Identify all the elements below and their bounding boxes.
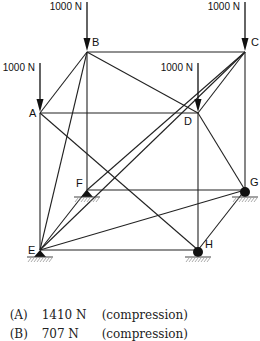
ground-hatch (195, 258, 198, 262)
ground-hatch (245, 198, 248, 202)
load-label: 1000 N (50, 1, 82, 12)
ground-hatch (81, 198, 84, 202)
node-label-h: H (205, 238, 213, 250)
pin-icon (34, 250, 46, 257)
load-arrowhead-icon (242, 38, 249, 51)
member-DC (198, 52, 245, 113)
ground-hatch (207, 258, 210, 262)
pin-icon (81, 190, 93, 197)
node-label-b: B (92, 36, 99, 48)
ground-hatch (43, 258, 46, 262)
ground-hatch (248, 198, 251, 202)
node-label-e: E (28, 244, 35, 256)
member-AH (40, 113, 198, 250)
answer-option-b[interactable]: (B)707 N(compression) (2, 313, 188, 341)
roller-icon (193, 247, 203, 257)
ground-hatch (198, 258, 201, 262)
load-label: 1000 N (3, 62, 35, 73)
support-g-roller (232, 187, 258, 202)
member-DG (198, 113, 245, 190)
ground-hatch (251, 198, 254, 202)
ground-hatch (201, 258, 204, 262)
truss-diagram: 1000 N1000 N1000 N1000 NABCDEFGH (0, 0, 260, 290)
ground-hatch (37, 258, 40, 262)
option-key: (B) (10, 327, 42, 341)
node-label-a: A (29, 107, 37, 119)
node-label-c: C (251, 36, 259, 48)
ground-hatch (40, 258, 43, 262)
ground-hatch (78, 198, 81, 202)
roller-icon (240, 187, 250, 197)
ground-hatch (28, 258, 31, 262)
load-arrowhead-icon (84, 38, 91, 51)
ground-hatch (84, 198, 87, 202)
ground-hatch (49, 258, 52, 262)
load-label: 1000 N (208, 1, 240, 12)
ground-hatch (46, 258, 49, 262)
ground-hatch (189, 258, 192, 262)
ground-hatch (239, 198, 242, 202)
ground-hatch (254, 198, 257, 202)
option-value: 707 N (42, 327, 102, 341)
ground-hatch (204, 258, 207, 262)
node-label-f: F (76, 177, 83, 189)
ground-hatch (96, 198, 99, 202)
node-label-d: D (184, 115, 192, 127)
ground-hatch (236, 198, 239, 202)
load-label: 1000 N (161, 62, 193, 73)
option-note: (compression) (102, 327, 188, 341)
ground-hatch (242, 198, 245, 202)
ground-hatch (34, 258, 37, 262)
ground-hatch (192, 258, 195, 262)
ground-hatch (31, 258, 34, 262)
ground-hatch (186, 258, 189, 262)
node-label-g: G (250, 176, 259, 188)
